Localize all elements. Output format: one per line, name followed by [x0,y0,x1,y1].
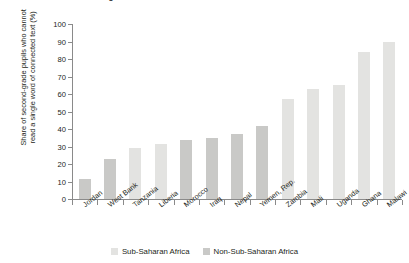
legend-swatch [203,248,210,255]
bar [358,52,370,199]
bar-slot [148,24,173,199]
bar-slot [199,24,224,199]
bar [231,134,243,199]
bar-slot [351,24,376,199]
y-axis-tick-label: 0 [62,195,66,204]
bar-slot [250,24,275,199]
legend-label: Sub-Saharan Africa [122,247,190,256]
y-axis-tick-label: 20 [58,160,66,169]
y-axis-tick-label: 90 [58,37,66,46]
bar-slot [72,24,97,199]
bar-slot [301,24,326,199]
bar-slot [326,24,351,199]
y-axis-title-line-1: Share of second-grade pupils who cannot [19,0,28,167]
y-axis-tick-label: 100 [53,20,66,29]
chart-title: Poor reading outcomes in low-income coun… [62,0,254,1]
bar-slot [224,24,249,199]
bar [104,159,116,199]
bar-slot [174,24,199,199]
chart-legend: Sub-Saharan AfricaNon-Sub-Saharan Africa [0,247,409,256]
x-axis-labels: JordanWest BankTanzaniaLiberiaMoroccoIra… [72,202,402,252]
legend-swatch [111,248,118,255]
y-axis-tick-label: 80 [58,55,66,64]
legend-item[interactable]: Sub-Saharan Africa [111,247,190,256]
y-axis-tick-label: 10 [58,177,66,186]
y-axis-tick-label: 50 [58,107,66,116]
bar-slot [97,24,122,199]
bar-series-container [72,24,402,199]
bar-slot [123,24,148,199]
bar [256,126,268,200]
legend-label: Non-Sub-Saharan Africa [214,247,299,256]
y-axis-tick-label: 40 [58,125,66,134]
chart-title-clipped: Poor reading outcomes in low-income coun… [0,0,409,9]
bar [180,140,192,200]
y-axis-title-line-2: read a single word of connected text (%) [28,0,37,167]
bar [307,89,319,199]
bar-slot [275,24,300,199]
legend-item[interactable]: Non-Sub-Saharan Africa [203,247,299,256]
bar-chart: Poor reading outcomes in low-income coun… [0,0,409,263]
y-axis-title: Share of second-grade pupils who cannot … [19,0,38,167]
y-axis-tick-label: 30 [58,142,66,151]
plot-area: 0102030405060708090100 [72,24,402,200]
y-axis-tick-label: 60 [58,90,66,99]
bar [333,85,345,199]
bar [383,42,395,200]
bar-slot [377,24,402,199]
y-axis-tick-label: 70 [58,72,66,81]
x-axis-tick [402,200,403,205]
